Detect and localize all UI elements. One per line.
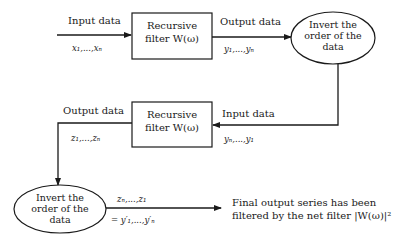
invert2-line3: data: [14, 214, 106, 225]
filter2-line1: Recursive: [132, 108, 212, 121]
final-line1: Final output series has been: [232, 196, 391, 209]
invert2-line1: Invert the: [14, 192, 106, 203]
invert1-line3: data: [291, 41, 375, 52]
input1-series: x₁,...,xₙ: [72, 42, 102, 54]
output1-label: Output data: [220, 16, 281, 28]
output2-series: z₁,...,zₙ: [71, 132, 100, 144]
reversed-equals: = y′₁,...,y′ₙ: [111, 214, 155, 226]
input2-label: Input data: [222, 108, 275, 120]
input2-series: yₙ,...,y₁: [224, 133, 254, 145]
input1-label: Input data: [68, 15, 121, 27]
final-output-text: Final output series has been filtered by…: [232, 196, 391, 222]
final-line2: filtered by the net filter |W(ω)|²: [232, 209, 391, 222]
invert2-line2: order of the: [14, 203, 106, 214]
invert2-label: Invert the order of the data: [14, 192, 106, 225]
reversed-series: zₙ,...,z₁: [117, 193, 146, 205]
invert1-line2: order of the: [291, 30, 375, 41]
filter2-line2: filter W(ω): [132, 121, 212, 134]
filter1-line2: filter W(ω): [132, 32, 212, 45]
invert1-label: Invert the order of the data: [291, 19, 375, 52]
output2-label: Output data: [63, 105, 124, 117]
filter1-line1: Recursive: [132, 19, 212, 32]
output1-series: y₁,...,yₙ: [224, 43, 254, 55]
filter2-label: Recursive filter W(ω): [132, 108, 212, 134]
filter1-label: Recursive filter W(ω): [132, 19, 212, 45]
invert1-line1: Invert the: [291, 19, 375, 30]
